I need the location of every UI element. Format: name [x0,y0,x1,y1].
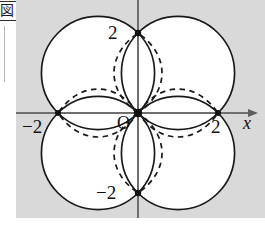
marker-dot-x-left [55,110,61,116]
y-axis-tick-label-top: 2 [108,22,118,44]
y-axis-tick-label-bottom: −2 [96,182,116,204]
x-axis-name-label: x [243,113,251,134]
x-axis-tick-label-right: 2 [211,116,221,138]
x-axis-tick-label-left: −2 [22,116,42,138]
origin-label: O [117,113,130,134]
marker-dot-y-bottom [135,190,141,196]
marker-dot-y-top [135,30,141,36]
figure-container: 図 [0,0,265,239]
origin-marker-dot [134,109,142,117]
